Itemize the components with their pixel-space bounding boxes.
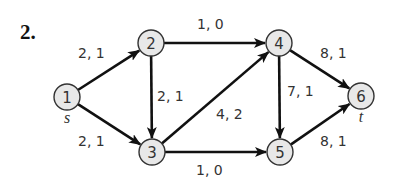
edge-label-5-6: 8, 1 xyxy=(320,133,347,149)
edge-label-1-3: 2, 1 xyxy=(78,133,105,149)
edge-label-4-5: 7, 1 xyxy=(287,83,314,99)
node-1: 1s xyxy=(54,84,80,126)
problem-number: 2. xyxy=(20,20,36,44)
edge-label-2-3: 2, 1 xyxy=(157,88,184,104)
edge-4-5 xyxy=(279,56,280,138)
edge-label-1-2: 2, 1 xyxy=(78,45,105,61)
node-3: 3 xyxy=(139,139,165,165)
node-label: 4 xyxy=(274,35,284,53)
node-label: 6 xyxy=(356,88,366,106)
flow-network-diagram: 2. 2, 12, 11, 02, 14, 21, 08, 17, 18, 1 … xyxy=(0,0,398,187)
node-label: 3 xyxy=(147,144,157,162)
edge-label-2-4: 1, 0 xyxy=(197,16,224,32)
node-label: 5 xyxy=(275,144,285,162)
edge-label-3-4: 4, 2 xyxy=(216,106,243,122)
edge-2-3 xyxy=(151,56,152,138)
edge-labels: 2, 12, 11, 02, 14, 21, 08, 17, 18, 1 xyxy=(78,16,347,178)
node-label: 1 xyxy=(62,89,72,107)
edge-label-3-5: 1, 0 xyxy=(196,162,223,178)
node-5: 5 xyxy=(267,139,293,165)
node-4: 4 xyxy=(266,30,292,56)
sink-label: t xyxy=(359,108,364,125)
source-label: s xyxy=(64,109,70,126)
node-6: 6t xyxy=(348,83,374,125)
edge-label-4-6: 8, 1 xyxy=(320,45,347,61)
node-label: 2 xyxy=(146,35,156,53)
node-2: 2 xyxy=(138,30,164,56)
